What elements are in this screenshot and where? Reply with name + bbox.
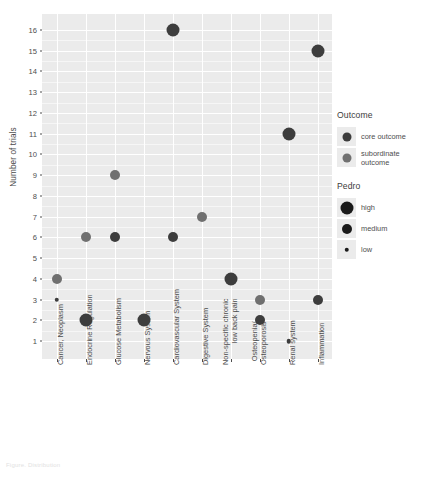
legend-outcome-title: Outcome <box>337 110 426 120</box>
data-point <box>197 212 207 222</box>
y-tick-label: 1 <box>2 337 42 346</box>
y-tick-mark <box>40 50 43 51</box>
legend-item: medium <box>337 219 426 238</box>
legend-key-swatch <box>337 240 356 259</box>
y-tick-label: 4 <box>2 274 42 283</box>
y-tick-mark <box>40 195 43 196</box>
y-tick-mark <box>40 341 43 342</box>
gridline-major-vertical <box>289 14 290 359</box>
data-point <box>54 297 59 302</box>
y-tick-mark <box>40 133 43 134</box>
legend-item: low <box>337 240 426 259</box>
legend-key-swatch <box>337 127 356 146</box>
legend-key-swatch <box>337 219 356 238</box>
y-tick-label: 2 <box>2 316 42 325</box>
data-point <box>166 24 179 37</box>
y-tick-label: 13 <box>2 88 42 97</box>
plot-panel: 12345678910111213141516Cancer, NeoplasmE… <box>42 14 332 359</box>
legend-key-swatch <box>337 148 356 167</box>
x-tick-label: Digestive System <box>202 308 211 365</box>
data-point <box>286 339 291 344</box>
y-tick-label: 10 <box>2 150 42 159</box>
data-point <box>282 127 295 140</box>
x-tick-label: Osteopenia/ Osteoporosis <box>251 321 268 365</box>
legend-item: core outcome <box>337 127 426 146</box>
x-tick-label: Glucose Metabolism <box>115 298 124 365</box>
y-tick-label: 9 <box>2 171 42 180</box>
legend-item-label: high <box>361 203 375 212</box>
data-point <box>110 232 120 242</box>
data-point <box>110 170 120 180</box>
data-point <box>81 232 91 242</box>
y-tick-mark <box>40 320 43 321</box>
x-tick-label: Non-specific chronic low back pain <box>222 298 239 365</box>
figure-caption: Figure. Distribution <box>6 462 60 468</box>
y-tick-mark <box>40 175 43 176</box>
y-tick-mark <box>40 92 43 93</box>
y-tick-label: 6 <box>2 233 42 242</box>
legend-key-swatch <box>337 198 356 217</box>
y-tick-label: 16 <box>2 26 42 35</box>
y-tick-label: 8 <box>2 191 42 200</box>
gridline-major-vertical <box>144 14 145 359</box>
legend-item-label: subordinate outcome <box>361 149 426 167</box>
x-tick-label: Endocrine Regulation <box>86 294 95 365</box>
y-tick-label: 7 <box>2 212 42 221</box>
y-tick-label: 11 <box>2 129 42 138</box>
data-point <box>168 232 178 242</box>
data-point <box>255 315 265 325</box>
x-tick-label: Cardiovascular System <box>173 289 182 365</box>
legend-item-label: low <box>361 245 372 254</box>
legend-item: high <box>337 198 426 217</box>
y-tick-label: 5 <box>2 254 42 263</box>
legend-pedro: Pedro highmediumlow <box>337 181 426 259</box>
data-point <box>255 295 265 305</box>
legend-pedro-title: Pedro <box>337 181 426 191</box>
scatter-plot-figure: Number of trials 12345678910111213141516… <box>0 0 426 477</box>
legend: Outcome core outcomesubordinate outcome … <box>337 110 426 273</box>
y-tick-mark <box>40 237 43 238</box>
y-tick-label: 3 <box>2 295 42 304</box>
y-tick-mark <box>40 71 43 72</box>
y-tick-mark <box>40 278 43 279</box>
y-tick-label: 15 <box>2 46 42 55</box>
legend-item: subordinate outcome <box>337 148 426 167</box>
data-point <box>224 272 237 285</box>
legend-item-label: core outcome <box>361 132 406 141</box>
y-tick-mark <box>40 216 43 217</box>
y-tick-mark <box>40 112 43 113</box>
legend-outcome: Outcome core outcomesubordinate outcome <box>337 110 426 167</box>
y-tick-mark <box>40 30 43 31</box>
legend-item-label: medium <box>361 224 387 233</box>
x-tick-label: Cancer, Neoplasm <box>57 304 66 365</box>
y-tick-label: 14 <box>2 67 42 76</box>
data-point <box>79 314 92 327</box>
gridline-major-vertical <box>260 14 261 359</box>
x-tick-label: Inflammation <box>318 323 327 365</box>
y-tick-label: 12 <box>2 108 42 117</box>
y-tick-mark <box>40 299 43 300</box>
data-point <box>52 274 62 284</box>
data-point <box>137 314 150 327</box>
data-point <box>313 295 323 305</box>
y-tick-mark <box>40 154 43 155</box>
data-point <box>311 44 324 57</box>
y-tick-mark <box>40 258 43 259</box>
gridline-major-vertical <box>318 14 319 359</box>
